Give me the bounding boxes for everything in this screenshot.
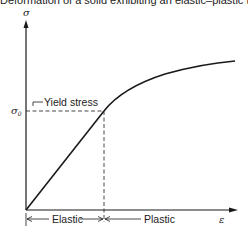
plastic-curve <box>104 61 235 111</box>
elastic-region-label: Elastic <box>52 213 83 225</box>
elastic-line <box>26 111 104 210</box>
stress-strain-diagram: σ ε σ0 Yield stress Elastic Plastic <box>0 0 248 236</box>
yield-level-label: σ0 <box>11 105 22 117</box>
yield-annotation-leader <box>33 102 43 106</box>
y-axis-label: σ <box>23 7 31 18</box>
x-axis-label: ε <box>219 214 224 225</box>
y-axis-arrowhead <box>24 20 29 28</box>
x-axis-arrowhead <box>229 208 238 213</box>
yield-stress-annotation: Yield stress <box>44 96 98 108</box>
plastic-region-label: Plastic <box>144 213 175 225</box>
